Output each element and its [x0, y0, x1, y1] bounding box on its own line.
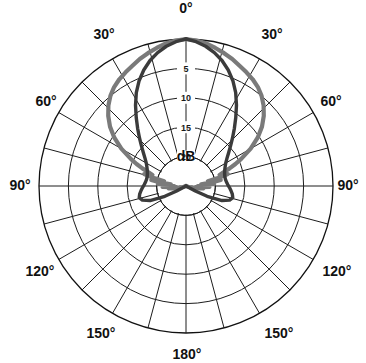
angle-label-180: 180° — [173, 346, 202, 362]
angle-label-60-right: 60° — [320, 93, 341, 109]
angle-label-150-left: 150° — [87, 325, 116, 341]
angle-label-0: 0° — [179, 0, 192, 16]
angle-label-90-right: 90° — [337, 177, 358, 193]
angle-label-30-left: 30° — [93, 26, 114, 42]
angle-label-120-right: 120° — [323, 263, 352, 279]
radial-tick-label: 5 — [183, 64, 188, 74]
radial-tick-label: 10 — [181, 93, 191, 103]
polar-plot-figure: 5101520 0° 30° 30° 60° 60° 90° 90° 120° … — [0, 0, 366, 363]
angle-label-30-right: 30° — [261, 26, 282, 42]
radial-unit-label: dB — [177, 148, 196, 164]
radial-tick-label: 15 — [181, 123, 191, 133]
angle-label-90-left: 90° — [9, 177, 30, 193]
angle-label-150-right: 150° — [265, 325, 294, 341]
angle-label-60-left: 60° — [35, 93, 56, 109]
polar-plot-canvas: 5101520 0° 30° 30° 60° 60° 90° 90° 120° … — [0, 0, 366, 363]
angle-label-120-left: 120° — [26, 263, 55, 279]
